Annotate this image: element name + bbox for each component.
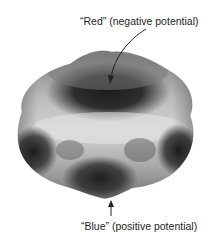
negative-potential-label: “Red” (negative potential) xyxy=(80,15,198,27)
molecule-surface xyxy=(0,40,210,210)
potential-surface-diagram xyxy=(0,0,210,239)
positive-potential-arrow xyxy=(108,200,114,216)
positive-potential-label: “Blue” (positive potential) xyxy=(81,220,197,232)
